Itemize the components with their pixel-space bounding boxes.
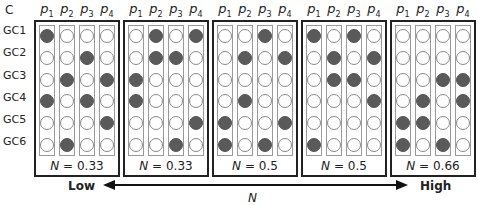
empty-circle xyxy=(40,51,54,65)
empty-circle xyxy=(218,29,232,43)
axis-title: N xyxy=(248,191,257,205)
empty-circle xyxy=(238,138,252,152)
filled-circle xyxy=(100,73,114,87)
column-label-base: p xyxy=(218,1,226,16)
column-strip xyxy=(455,25,471,156)
empty-circle xyxy=(100,94,114,108)
empty-circle xyxy=(129,51,143,65)
column-strip xyxy=(366,25,382,156)
row-label: GC2 xyxy=(3,46,33,60)
column-label-subscript: 2 xyxy=(425,10,430,19)
empty-circle xyxy=(100,29,114,43)
filled-circle xyxy=(40,29,54,43)
column-strip xyxy=(148,25,164,156)
gene-panel: N = 0.5 xyxy=(301,20,387,177)
column-strip xyxy=(415,25,431,156)
column-label: p3 xyxy=(433,1,453,19)
column-label-base: p xyxy=(327,1,335,16)
empty-circle xyxy=(149,116,163,130)
n-value: = 0.5 xyxy=(334,159,367,173)
n-symbol: N xyxy=(50,159,59,173)
empty-circle xyxy=(189,51,203,65)
column-label: p1 xyxy=(393,1,413,19)
empty-circle xyxy=(80,116,94,130)
empty-circle xyxy=(60,94,74,108)
column-label-subscript: 4 xyxy=(376,10,381,19)
filled-circle xyxy=(238,94,252,108)
empty-circle xyxy=(396,51,410,65)
filled-circle xyxy=(169,51,183,65)
empty-circle xyxy=(80,73,94,87)
column-label: p4 xyxy=(97,1,117,19)
column-label-subscript: 4 xyxy=(465,10,470,19)
column-label-subscript: 4 xyxy=(287,10,292,19)
n-value: = 0.66 xyxy=(419,159,460,173)
empty-circle xyxy=(238,29,252,43)
empty-circle xyxy=(347,116,361,130)
column-strip xyxy=(128,25,144,156)
filled-circle xyxy=(100,116,114,130)
gene-panel: N = 0.66 xyxy=(390,20,476,177)
panel-letter: C xyxy=(5,3,13,17)
column-label-base: p xyxy=(129,1,137,16)
column-strip xyxy=(306,25,322,156)
filled-circle xyxy=(307,29,321,43)
column-label: p4 xyxy=(186,1,206,19)
column-label: p4 xyxy=(453,1,473,19)
column-label-base: p xyxy=(169,1,177,16)
empty-circle xyxy=(327,116,341,130)
empty-circle xyxy=(307,51,321,65)
column-label: p1 xyxy=(215,1,235,19)
filled-circle xyxy=(347,73,361,87)
column-label-base: p xyxy=(238,1,246,16)
filled-circle xyxy=(129,94,143,108)
column-strip xyxy=(346,25,362,156)
empty-circle xyxy=(278,94,292,108)
column-label-subscript: 1 xyxy=(49,10,54,19)
empty-circle xyxy=(169,94,183,108)
n-value: = 0.33 xyxy=(152,159,193,173)
row-label: GC5 xyxy=(3,113,33,127)
filled-circle xyxy=(436,138,450,152)
n-value-label: N = 0.33 xyxy=(125,159,207,173)
column-label-subscript: 2 xyxy=(69,10,74,19)
column-label-base: p xyxy=(149,1,157,16)
filled-circle xyxy=(327,73,341,87)
column-strip xyxy=(217,25,233,156)
empty-circle xyxy=(436,29,450,43)
column-label-subscript: 2 xyxy=(158,10,163,19)
column-label-subscript: 3 xyxy=(178,10,183,19)
column-label: p3 xyxy=(255,1,275,19)
empty-circle xyxy=(60,51,74,65)
filled-circle xyxy=(169,138,183,152)
filled-circle xyxy=(278,116,292,130)
column-label: p2 xyxy=(57,1,77,19)
empty-circle xyxy=(218,73,232,87)
double-arrow-icon xyxy=(103,178,408,192)
filled-circle xyxy=(40,94,54,108)
empty-circle xyxy=(189,94,203,108)
column-label-base: p xyxy=(416,1,424,16)
empty-circle xyxy=(416,51,430,65)
column-label: p4 xyxy=(275,1,295,19)
column-strip xyxy=(257,25,273,156)
n-value-label: N = 0.5 xyxy=(214,159,296,173)
filled-circle xyxy=(218,116,232,130)
empty-circle xyxy=(278,138,292,152)
gene-panel: N = 0.33 xyxy=(123,20,209,177)
empty-circle xyxy=(60,29,74,43)
column-label-base: p xyxy=(396,1,404,16)
empty-circle xyxy=(327,29,341,43)
column-label-subscript: 4 xyxy=(109,10,114,19)
column-label-base: p xyxy=(436,1,444,16)
column-label: p3 xyxy=(166,1,186,19)
empty-circle xyxy=(100,138,114,152)
gene-panel: N = 0.5 xyxy=(212,20,298,177)
n-value-label: N = 0.5 xyxy=(303,159,385,173)
empty-circle xyxy=(396,29,410,43)
empty-circle xyxy=(149,94,163,108)
n-value-label: N = 0.33 xyxy=(36,159,118,173)
filled-circle xyxy=(258,29,272,43)
n-symbol: N xyxy=(232,159,241,173)
empty-circle xyxy=(367,138,381,152)
